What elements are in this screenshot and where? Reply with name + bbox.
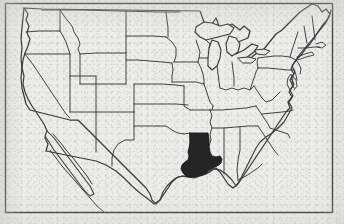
map-svg <box>0 0 344 224</box>
us-locator-map-figure: Louisiana United States (contiguous) <box>0 0 344 224</box>
